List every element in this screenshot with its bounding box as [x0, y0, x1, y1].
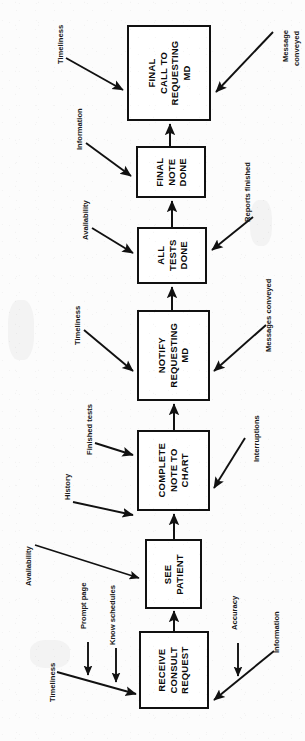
- label-timeliness-final-call: Timeliness: [56, 25, 65, 64]
- node-label: RECEIVE CONSULT REQUEST: [157, 646, 192, 693]
- scan-artifact: [8, 300, 34, 360]
- label-finished-tests: Finished tests: [85, 404, 94, 455]
- node-final-note-done[interactable]: FINAL NOTE DONE: [136, 146, 206, 198]
- edge-timeliness-to-finalcall: [66, 58, 123, 90]
- flowchart-canvas: FINAL CALL TO REQUESTING MD FINAL NOTE D…: [0, 0, 305, 741]
- label-availability-see-patient: Availability: [24, 546, 33, 586]
- label-timeliness-notify: Timeliness: [73, 306, 82, 345]
- edge-information-to-receive: [214, 651, 274, 700]
- edge-history-to-complete: [73, 502, 133, 515]
- label-availability-tests: Availability: [81, 200, 90, 240]
- label-know-schedules: Know schedules: [108, 585, 117, 645]
- label-message-conveyed-line2: conveyed: [292, 31, 301, 66]
- node-complete-note-to-chart[interactable]: COMPLETE NOTE TO CHART: [137, 430, 210, 511]
- label-reports-finished: Reports finished: [243, 162, 252, 222]
- node-see-patient[interactable]: SEE PATIENT: [145, 539, 202, 609]
- label-history: History: [63, 474, 72, 500]
- label-messages-conveyed: Messages conveyed: [264, 279, 273, 352]
- edge-timeliness-to-receive: [57, 672, 136, 694]
- label-accuracy: Accuracy: [230, 596, 239, 630]
- edge-availability-to-see: [35, 545, 139, 578]
- node-label: ALL TESTS DONE: [155, 240, 190, 272]
- node-label: SEE PATIENT: [162, 554, 185, 595]
- label-timeliness-receive: Timeliness: [48, 663, 57, 702]
- node-all-tests-done[interactable]: ALL TESTS DONE: [137, 227, 207, 284]
- node-notify-requesting-md[interactable]: NOTIFY REQUESTING MD: [137, 310, 210, 401]
- edge-timeliness-to-notify: [84, 330, 133, 371]
- scan-artifact: [250, 200, 272, 246]
- node-label: FINAL CALL TO REQUESTING MD: [146, 41, 192, 106]
- edge-finished-tests-to-complete: [95, 443, 133, 455]
- node-label: COMPLETE NOTE TO CHART: [156, 443, 191, 497]
- label-information-final-note: Information: [75, 108, 84, 150]
- label-interruptions: Interruptions: [252, 415, 261, 462]
- label-message-conveyed-line1: Message: [281, 30, 290, 62]
- edge-messages-conveyed-to-notify: [214, 325, 266, 371]
- edge-interruptions-to-complete: [214, 438, 245, 488]
- edge-information-to-finalnote: [86, 143, 131, 176]
- node-receive-consult-request[interactable]: RECEIVE CONSULT REQUEST: [139, 631, 209, 709]
- label-prompt-page: Prompt page: [79, 583, 88, 629]
- node-label: NOTIFY REQUESTING MD: [156, 323, 191, 388]
- edge-message-conveyed-to-finalcall: [216, 32, 273, 92]
- edge-availability-to-tests: [92, 228, 133, 253]
- node-label: FINAL NOTE DONE: [154, 158, 189, 187]
- node-final-call-to-requesting-md[interactable]: FINAL CALL TO REQUESTING MD: [127, 25, 211, 121]
- label-information-receive: Information: [272, 611, 281, 653]
